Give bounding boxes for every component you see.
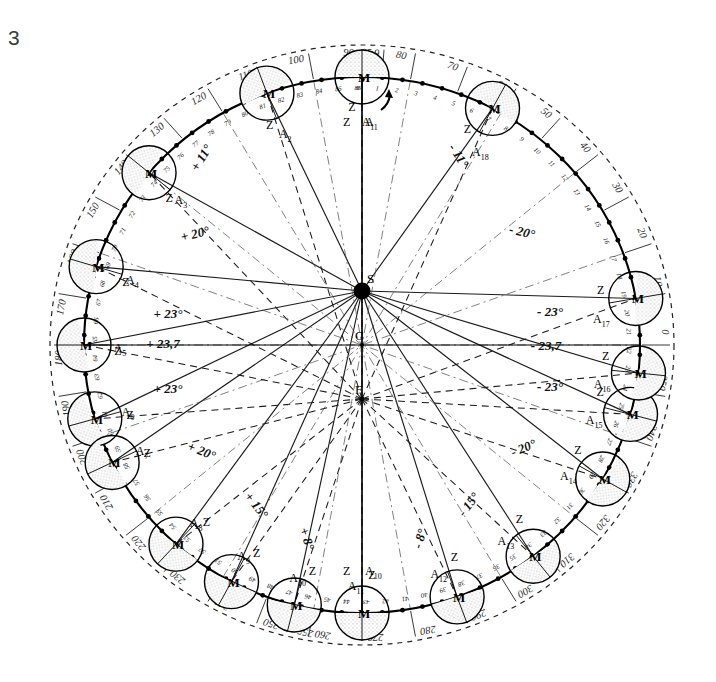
graduation-label: 320 [593, 512, 613, 532]
orbit-tick-number: 9 [519, 135, 526, 143]
apex-label: A18 [472, 145, 489, 162]
graduation-label: 150 [84, 200, 102, 220]
orbit-tick-number: 84 [315, 87, 323, 95]
apex-subscript: 17 [602, 320, 610, 329]
apex-subscript: 7 [144, 452, 148, 461]
declination-ray-dashed [294, 399, 362, 605]
orbit-tick-number: 26 [612, 420, 621, 429]
orbit-tick [134, 499, 139, 504]
orbit-tick [206, 119, 211, 124]
graduation-spoke [59, 294, 87, 299]
body-position: MZA18 [464, 71, 531, 162]
zenith-label: Z [597, 283, 604, 297]
orbit-tick-number: 78 [206, 127, 216, 137]
graduation-label: 80 [395, 49, 408, 62]
declination-ray-solid [362, 108, 493, 291]
zenith-label: Z [309, 564, 316, 578]
apex-label: A17 [593, 312, 610, 329]
orbit-tick [615, 238, 620, 243]
declination-ray-solid [362, 291, 636, 298]
declination-angle-label-left: + 20° [179, 223, 211, 245]
orbit-tick [112, 220, 117, 225]
orbit-tick [224, 109, 229, 114]
orbit-tick-number: 6 [469, 106, 476, 114]
orbit-tick [586, 187, 591, 192]
moon-letter: M [108, 455, 120, 470]
orbit-tick [530, 130, 535, 135]
zenith-label: Z [166, 191, 173, 205]
declination-angle-label-left: + 23° [154, 381, 184, 396]
orbit-tick-number: 5 [451, 99, 457, 107]
zenith-label: Z [253, 546, 260, 560]
orbit-tick-number: 46 [303, 593, 312, 601]
orbit-tick-number: 72 [127, 209, 137, 219]
orbit-tick [82, 333, 87, 338]
graduation-label: 0 [660, 329, 671, 335]
graduation-label: 300 [515, 582, 536, 600]
moon-letter: M [358, 70, 370, 85]
orbit-tick [400, 77, 405, 82]
apex-subscript: 13 [506, 542, 514, 551]
orbit-tick [190, 130, 195, 135]
orbit-tick-number: 4 [432, 93, 438, 101]
orbit-tick-number: 47 [284, 588, 293, 597]
orbit-tick-number: 32 [552, 515, 563, 526]
orbit-tick-number: 82 [277, 95, 286, 104]
orbit-tick-number: 58 [121, 461, 131, 471]
orbit-tick [615, 447, 620, 452]
orbit-tick [159, 157, 164, 162]
orbit-tick-number: 3 [413, 89, 419, 97]
orbit-tick-number: 68 [98, 279, 107, 288]
declination-angle-label-left: + 20° [185, 438, 218, 463]
apex-subscript: 6 [130, 413, 134, 422]
declination-ray-solid [362, 291, 638, 373]
declination-ray-solid [362, 291, 457, 597]
graduation-label: 220 [129, 533, 148, 553]
orbit-tick-number: 15 [593, 219, 603, 229]
declination-angle-label-left: + 8° [297, 526, 318, 553]
apex-label: A8 [190, 516, 203, 533]
graduation-label: 120 [189, 89, 209, 107]
orbit-tick-number: 43 [362, 599, 369, 606]
apex-subscript: 3 [183, 201, 187, 210]
orbit-tick-number: 2 [395, 86, 400, 94]
declination-ray-solid [112, 291, 362, 462]
orbit-tick-number: 36 [491, 562, 502, 572]
orbit-tick-number: 19 [620, 290, 628, 298]
orbit-tick-number: 71 [118, 226, 127, 235]
orbit-tick-number: 56 [142, 493, 152, 503]
zenith-label: Z [451, 550, 458, 564]
apex-label: A14 [560, 469, 577, 486]
graduation-label: 210 [97, 492, 115, 512]
orbit-tick-number: 48 [265, 582, 274, 591]
orbit-tick [573, 171, 578, 176]
moon-letter: M [290, 598, 302, 613]
axis-zenith-label: Z [343, 115, 350, 129]
orbit-tick-number: 55 [154, 507, 164, 517]
graduation-spoke [502, 579, 516, 602]
zenith-label: Z [574, 443, 581, 457]
apex-subscript: 5 [122, 349, 126, 358]
declination-angle-label-right: - 23° [537, 304, 564, 319]
apex-label: A15 [586, 413, 603, 430]
orbit-tick-number: 45 [323, 596, 331, 604]
apex-label: A3 [174, 193, 187, 210]
orbit-tick [637, 333, 642, 338]
center-point [360, 343, 364, 347]
orbit-tick-number: 25 [617, 402, 626, 411]
orbit-tick [299, 81, 304, 86]
apex-label: A2 [279, 127, 292, 144]
body-position: MZA5 [52, 318, 126, 377]
orbital-diagram-svg: 9085,98070605040302010035034033032031030… [0, 0, 716, 682]
figure-canvas: 3 9085,980706050403020100350340330320310… [0, 0, 716, 682]
orbit-tick [122, 203, 127, 208]
orbit-tick-number: 44 [342, 598, 350, 606]
orbit-tick-number: 79 [223, 117, 233, 127]
graduation-spoke [542, 118, 560, 138]
orbit-tick-number: 12 [560, 172, 570, 182]
graduation-spoke [309, 53, 314, 79]
orbit-tick-number: 40 [420, 591, 429, 599]
declination-angle-label-left: + 15° [242, 489, 272, 522]
graduation-spoke [208, 89, 222, 112]
graduation-label: 30 [610, 179, 626, 195]
